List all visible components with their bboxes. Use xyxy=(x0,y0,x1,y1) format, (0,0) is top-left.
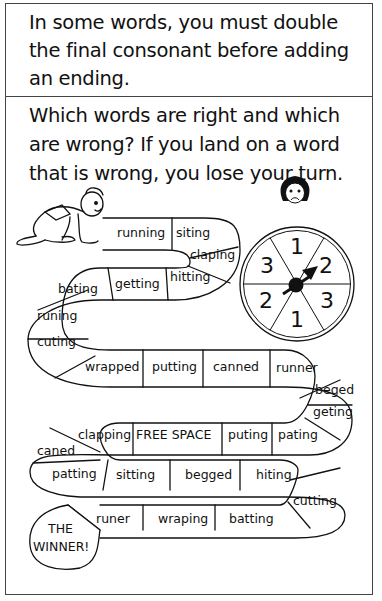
finish-label-1: THE xyxy=(47,521,73,536)
board-space[interactable]: cutting xyxy=(293,493,337,508)
finish-bubble xyxy=(30,505,100,569)
spinner-section: 1 xyxy=(290,307,304,332)
board-space[interactable]: begged xyxy=(185,467,232,482)
spinner-section: 2 xyxy=(319,253,333,278)
board-space[interactable]: patting xyxy=(52,466,97,481)
spinner[interactable]: 1 2 3 1 2 3 xyxy=(240,227,354,341)
board-space[interactable]: claping xyxy=(190,247,235,262)
board-space[interactable]: runer xyxy=(96,511,131,526)
board-space[interactable]: running xyxy=(117,225,165,240)
board-space[interactable]: bating xyxy=(58,281,98,296)
board-space[interactable]: runing xyxy=(37,308,77,323)
finish-label-2: WINNER! xyxy=(33,539,89,554)
game-board: running siting claping hitting getting b… xyxy=(0,0,382,601)
board-space-free[interactable]: FREE SPACE xyxy=(136,427,211,442)
board-space[interactable]: batting xyxy=(229,511,274,526)
spinner-section: 1 xyxy=(290,234,304,259)
sad-girl-icon xyxy=(281,176,310,203)
board-space[interactable]: caned xyxy=(37,443,75,458)
board-space[interactable]: putting xyxy=(152,359,197,374)
runner-figure-icon xyxy=(17,188,103,245)
spinner-section: 3 xyxy=(260,253,274,278)
board-space[interactable]: wraping xyxy=(158,511,208,526)
board-space[interactable]: hiting xyxy=(256,467,292,482)
board-space[interactable]: sitting xyxy=(116,467,155,482)
board-space[interactable]: wrapped xyxy=(85,359,140,374)
spinner-section: 3 xyxy=(320,288,334,313)
board-space[interactable]: canned xyxy=(213,359,259,374)
board-space[interactable]: puting xyxy=(228,427,268,442)
board-space[interactable]: getting xyxy=(115,276,160,291)
board-space[interactable]: beged xyxy=(315,382,354,397)
board-space[interactable]: hitting xyxy=(170,269,211,284)
spinner-section: 2 xyxy=(259,288,273,313)
board-space[interactable]: clapping xyxy=(78,427,131,442)
board-space[interactable]: geting xyxy=(313,404,353,419)
board-space[interactable]: runner xyxy=(276,360,319,375)
board-space[interactable]: cuting xyxy=(37,334,76,349)
board-space[interactable]: pating xyxy=(278,427,318,442)
board-space[interactable]: siting xyxy=(176,225,210,240)
